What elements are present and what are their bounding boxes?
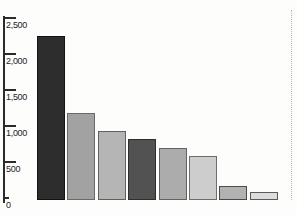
y-tick-0 xyxy=(3,197,9,199)
y-tick-label: 1,500 xyxy=(6,92,27,102)
bar-4 xyxy=(128,139,156,200)
y-tick-label: 1,000 xyxy=(6,128,27,138)
y-tick-500 xyxy=(3,161,16,163)
bar-7 xyxy=(219,186,247,200)
y-tick-label: 500 xyxy=(6,164,20,174)
bar-6 xyxy=(189,156,217,200)
right-edge-dotted-line xyxy=(291,10,292,200)
bar-3 xyxy=(98,131,126,200)
y-tick-2,500 xyxy=(3,17,16,19)
bar-2 xyxy=(67,113,95,200)
y-tick-label: 2,500 xyxy=(6,20,27,30)
y-tick-1,000 xyxy=(3,125,16,127)
bar-5 xyxy=(159,148,187,200)
bar-8 xyxy=(250,192,278,200)
bar-chart: 2,5002,0001,5001,0005000 xyxy=(0,0,297,215)
bar-1 xyxy=(37,36,65,200)
y-tick-1,500 xyxy=(3,89,16,91)
y-axis-line xyxy=(3,16,5,203)
y-tick-2,000 xyxy=(3,53,16,55)
y-tick-label: 0 xyxy=(6,200,11,210)
y-tick-label: 2,000 xyxy=(6,56,27,66)
